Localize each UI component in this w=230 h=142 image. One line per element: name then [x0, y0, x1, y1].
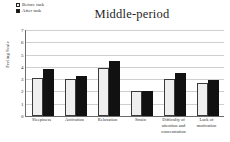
bar [175, 73, 186, 116]
bar-group [158, 30, 191, 116]
bar-group [26, 30, 59, 116]
y-axis-title: Feeling Scale [5, 29, 10, 81]
bar-group [92, 30, 125, 116]
legend-swatch-open-square-icon [16, 3, 20, 7]
plot-area: 01234567 [25, 30, 224, 117]
legend-swatch-filled-square-icon [16, 9, 20, 13]
legend-label-after-task: After task [22, 9, 41, 14]
y-axis-tick-label: 7 [21, 28, 24, 33]
bar-group [191, 30, 224, 116]
bar [142, 91, 153, 116]
x-axis-tick-label: Sleepiness [25, 117, 58, 134]
bar [65, 79, 76, 116]
chart-legend: Before task After task [16, 3, 44, 13]
y-axis-tick-label: 1 [21, 101, 24, 106]
bar-group [125, 30, 158, 116]
bar [76, 76, 87, 116]
y-axis-tick-label: 3 [21, 77, 24, 82]
bars-layer [26, 30, 224, 116]
legend-label-before-task: Before task [22, 3, 44, 8]
bar [208, 80, 219, 116]
bar [98, 68, 109, 116]
bar [32, 78, 43, 116]
y-axis-tick-label: 2 [21, 89, 24, 94]
x-axis-tick-label: Difficulty ofattention andconcentration [157, 117, 190, 134]
bar [131, 91, 142, 116]
bar [164, 79, 175, 116]
bar-chart-figure: Before task After task Middle-period Fee… [0, 0, 230, 142]
y-axis-tick-label: 5 [21, 52, 24, 57]
x-axis-tick-labels: SleepinessActivationRelaxationStrainDiff… [25, 117, 223, 134]
bar [197, 83, 208, 116]
y-axis-tick-label: 6 [21, 40, 24, 45]
bar [109, 61, 120, 116]
bar [43, 69, 54, 116]
legend-item-before-task: Before task [16, 3, 44, 8]
bar-group [59, 30, 92, 116]
x-axis-tick-label: Activation [58, 117, 91, 134]
x-axis-tick-label: Lack ofmotivation [190, 117, 223, 134]
x-axis-tick-label: Strain [124, 117, 157, 134]
y-axis-tick-label: 0 [21, 114, 24, 119]
legend-item-after-task: After task [16, 9, 44, 14]
chart-title: Middle-period [17, 7, 230, 22]
x-axis-tick-label: Relaxation [91, 117, 124, 134]
y-axis-tick-label: 4 [21, 64, 24, 69]
